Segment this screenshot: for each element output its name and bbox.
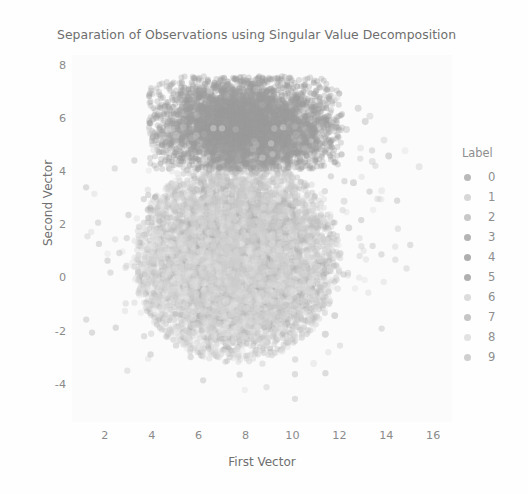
legend-swatch-icon: [464, 354, 471, 361]
y-tick-label: 6: [40, 112, 66, 125]
y-tick-label: 8: [40, 59, 66, 72]
y-axis-label: Second Vector: [41, 143, 55, 263]
x-axis-label: First Vector: [152, 455, 372, 469]
legend-item-4[interactable]: 4: [462, 247, 524, 267]
legend-item-6[interactable]: 6: [462, 287, 524, 307]
legend-swatch-icon: [464, 214, 471, 221]
y-tick-label: -2: [40, 325, 66, 338]
x-tick-label: 6: [184, 429, 214, 442]
legend-item-label: 6: [488, 290, 495, 304]
y-tick-label: -4: [40, 378, 66, 391]
legend-item-3[interactable]: 3: [462, 227, 524, 247]
legend-swatch-icon: [464, 174, 471, 181]
legend-item-label: 1: [488, 190, 495, 204]
legend-item-label: 8: [488, 330, 495, 344]
legend-item-2[interactable]: 2: [462, 207, 524, 227]
legend-swatch-icon: [464, 254, 471, 261]
x-tick-label: 10: [277, 429, 307, 442]
legend-swatch-icon: [464, 294, 471, 301]
legend-swatch-icon: [464, 194, 471, 201]
legend-item-label: 0: [488, 170, 495, 184]
x-axis-tick-labels: 246810121416: [0, 429, 528, 445]
legend-title: Label: [462, 146, 524, 160]
legend-swatch-icon: [464, 274, 471, 281]
legend-item-label: 7: [488, 310, 495, 324]
x-tick-label: 2: [90, 429, 120, 442]
plot-area: [72, 55, 452, 422]
legend-entries: 0123456789: [462, 167, 524, 367]
x-tick-label: 16: [418, 429, 448, 442]
legend-item-label: 5: [488, 270, 495, 284]
legend-item-8[interactable]: 8: [462, 327, 524, 347]
legend-swatch-icon: [464, 234, 471, 241]
legend-item-9[interactable]: 9: [462, 347, 524, 367]
legend-item-label: 4: [488, 250, 495, 264]
legend-swatch-icon: [464, 314, 471, 321]
x-tick-label: 14: [371, 429, 401, 442]
scatter-canvas: [72, 55, 452, 422]
legend-item-5[interactable]: 5: [462, 267, 524, 287]
page-title: Separation of Observations using Singula…: [57, 27, 463, 42]
legend-item-label: 3: [488, 230, 495, 244]
legend: Label 0123456789: [462, 146, 524, 367]
x-tick-label: 4: [137, 429, 167, 442]
y-tick-label: 0: [40, 271, 66, 284]
legend-item-label: 9: [488, 350, 495, 364]
legend-item-0[interactable]: 0: [462, 167, 524, 187]
legend-item-label: 2: [488, 210, 495, 224]
x-tick-label: 8: [231, 429, 261, 442]
x-tick-label: 12: [324, 429, 354, 442]
scatter-plot-figure: Separation of Observations using Singula…: [0, 0, 528, 494]
legend-swatch-icon: [464, 334, 471, 341]
legend-item-7[interactable]: 7: [462, 307, 524, 327]
legend-item-1[interactable]: 1: [462, 187, 524, 207]
